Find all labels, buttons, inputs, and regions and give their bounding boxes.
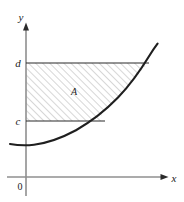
integral-region-diagram: y x 0 d c A [0, 0, 184, 202]
origin-label: 0 [18, 181, 23, 192]
y-tick-label-c: c [16, 115, 21, 127]
region-hatch-fill [26, 63, 149, 121]
y-axis-label: y [18, 11, 24, 23]
x-axis-arrow-icon [161, 174, 169, 180]
x-axis [7, 174, 169, 180]
y-axis-arrow-icon [23, 23, 29, 31]
shaded-region-A [26, 63, 149, 121]
x-axis-label: x [171, 172, 177, 184]
figure-canvas: y x 0 d c A [0, 0, 184, 202]
y-tick-label-d: d [15, 57, 21, 69]
region-label-A: A [70, 86, 78, 97]
